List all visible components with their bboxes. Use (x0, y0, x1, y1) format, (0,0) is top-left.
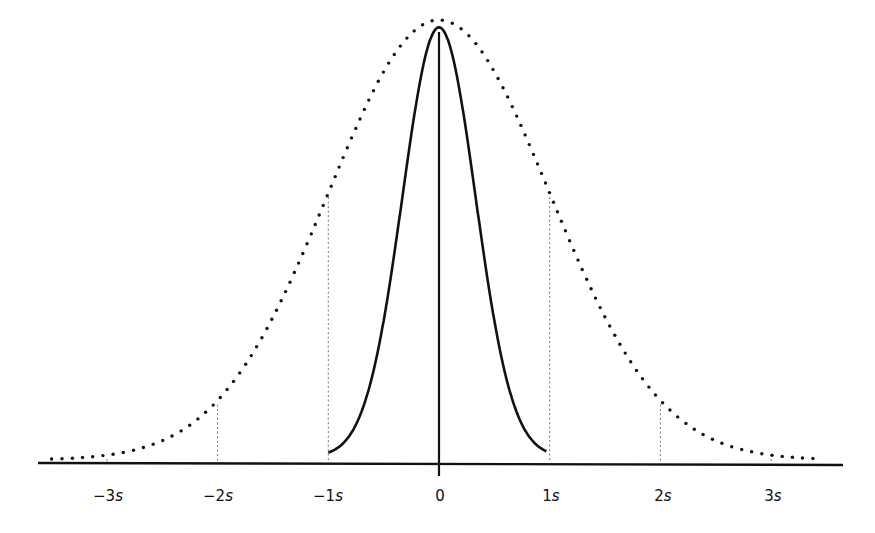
tick-label-0: 0 (435, 487, 445, 505)
wide-distribution-curve (50, 19, 815, 461)
tick-label-minus-2s: −2s (203, 487, 233, 505)
tick-label-3s: 3s (764, 487, 782, 505)
tick-label-1s: 1s (542, 487, 560, 505)
x-axis (38, 463, 843, 465)
tick-label-minus-3s: −3s (93, 487, 123, 505)
x-tick-labels: −3s −2s −1s 0 1s 2s 3s (93, 487, 782, 505)
tick-label-minus-1s: −1s (313, 487, 343, 505)
tick-label-2s: 2s (654, 487, 672, 505)
narrow-distribution-curve (328, 27, 546, 452)
distribution-chart: −3s −2s −1s 0 1s 2s 3s (0, 0, 875, 533)
